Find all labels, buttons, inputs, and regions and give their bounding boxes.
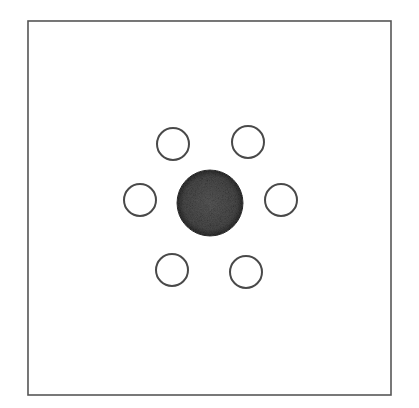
hollow-circle-bottom-right (230, 256, 262, 288)
hollow-circle-left (124, 184, 156, 216)
hollow-circle-top-left (157, 128, 189, 160)
hollow-circle-top-right (232, 126, 264, 158)
filled-center-circle (177, 170, 243, 236)
hollow-circle-bottom-left (156, 254, 188, 286)
diagram-canvas (0, 0, 419, 408)
hollow-circle-right (265, 184, 297, 216)
